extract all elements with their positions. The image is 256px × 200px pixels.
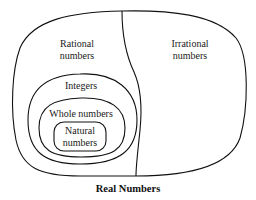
natural-label-line1: Natural bbox=[65, 125, 95, 136]
whole-numbers-label: Whole numbers bbox=[49, 108, 113, 119]
rational-label-line1: Rational bbox=[60, 38, 94, 49]
diagram-title: Real Numbers bbox=[96, 183, 160, 194]
natural-label-line2: numbers bbox=[63, 137, 98, 148]
rational-irrational-divider bbox=[122, 11, 141, 176]
integers-label: Integers bbox=[65, 80, 97, 91]
real-numbers-venn-diagram: Rational numbers Irrational numbers Inte… bbox=[0, 0, 256, 200]
irrational-label-line2: numbers bbox=[173, 50, 208, 61]
irrational-label-line1: Irrational bbox=[171, 38, 208, 49]
rational-label-line2: numbers bbox=[60, 50, 95, 61]
